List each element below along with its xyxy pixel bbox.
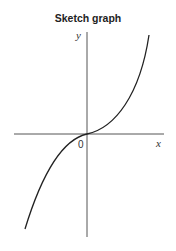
y-axis-label: y — [75, 29, 81, 41]
x-axis-label: x — [155, 137, 161, 149]
origin-label: 0 — [78, 139, 84, 150]
sketch-graph: y x 0 — [0, 0, 176, 251]
